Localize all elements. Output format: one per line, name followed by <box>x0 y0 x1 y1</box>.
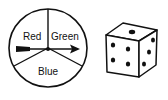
sector-label-blue: Blue <box>38 66 58 77</box>
pip-front <box>126 61 130 66</box>
die-front-face <box>106 35 139 77</box>
sector-label-red: Red <box>23 31 41 42</box>
sector-label-green: Green <box>51 31 79 42</box>
pip-front <box>111 42 115 47</box>
pip-front <box>111 57 115 62</box>
pip-top <box>129 30 135 34</box>
figure: Red Green Blue <box>0 0 168 100</box>
pip-right <box>142 61 146 66</box>
pip-right <box>147 49 151 54</box>
pip-front <box>126 46 130 51</box>
spinner: Red Green Blue <box>9 9 87 87</box>
pip-right <box>151 37 155 42</box>
